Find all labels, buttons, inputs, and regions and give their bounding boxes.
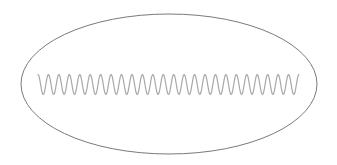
diagram-canvas (0, 0, 337, 165)
sine-wave (38, 75, 299, 95)
enclosing-ellipse (21, 14, 317, 154)
